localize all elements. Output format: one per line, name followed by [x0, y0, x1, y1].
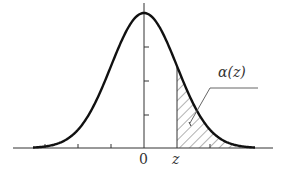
z-label: z [172, 151, 179, 167]
y-axis-ticks [144, 47, 149, 115]
origin-label: 0 [139, 151, 148, 167]
alpha-z-label: α(z) [218, 64, 246, 80]
normal-distribution-diagram [0, 0, 295, 176]
